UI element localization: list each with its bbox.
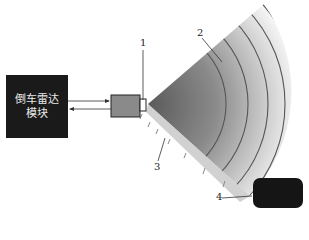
callout-3: 3	[154, 161, 160, 172]
reversing-radar-module: 倒车雷达 模块	[6, 75, 68, 138]
arrow-left-icon	[69, 107, 74, 111]
obstacle	[253, 178, 303, 208]
radar-sensor	[111, 95, 140, 117]
callout-4: 4	[216, 191, 222, 202]
module-label-line2: 模块	[26, 107, 48, 121]
leader-3	[158, 138, 165, 161]
arrow-right-icon	[105, 99, 110, 103]
module-label-line1: 倒车雷达	[15, 93, 59, 107]
sensor-head	[140, 99, 146, 111]
callout-1: 1	[140, 37, 146, 48]
callout-2: 2	[197, 27, 203, 38]
